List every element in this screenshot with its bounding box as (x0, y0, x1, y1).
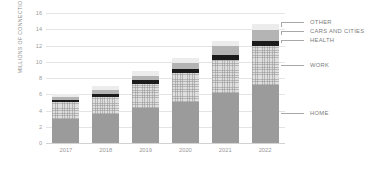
gridline (46, 94, 285, 95)
stacked-bar[interactable] (172, 58, 199, 143)
bar-segment-home[interactable] (172, 102, 199, 143)
legend-label[interactable]: HOME (310, 110, 329, 116)
y-tick-label: 14 (26, 26, 42, 32)
bar-group[interactable] (252, 13, 279, 143)
bar-group[interactable] (132, 13, 159, 143)
legend-label[interactable]: HEALTH (310, 37, 334, 43)
legend-label[interactable]: WORK (310, 62, 329, 68)
bar-segment-home[interactable] (52, 119, 79, 143)
stacked-bar[interactable] (132, 71, 159, 143)
bar-segment-work[interactable] (172, 73, 199, 101)
bar-segment-home[interactable] (132, 108, 159, 143)
stacked-bar[interactable] (252, 24, 279, 143)
x-axis-baseline (46, 143, 285, 144)
gridline (46, 111, 285, 112)
y-tick-label: 16 (26, 10, 42, 16)
bar-segment-work[interactable] (52, 102, 79, 119)
bar-segment-work[interactable] (252, 46, 279, 84)
bar-group[interactable] (212, 13, 239, 143)
x-tick-label: 2019 (126, 147, 165, 153)
bar-group[interactable] (172, 13, 199, 143)
y-tick-label: 4 (26, 108, 42, 114)
bar-segment-cars-and-cities[interactable] (212, 46, 239, 55)
gridline (46, 46, 285, 47)
legend-label[interactable]: CARS AND CITIES (310, 28, 364, 34)
bar-segment-work[interactable] (92, 97, 119, 114)
y-tick-label: 2 (26, 124, 42, 130)
y-tick-label: 12 (26, 43, 42, 49)
y-tick-label: 6 (26, 91, 42, 97)
legend-label[interactable]: OTHER (310, 19, 332, 25)
x-tick-label: 2018 (86, 147, 125, 153)
y-tick-label: 0 (26, 140, 42, 146)
y-tick-label: 8 (26, 75, 42, 81)
y-axis-tick-labels: 0246810121416 (24, 13, 42, 143)
bar-segment-cars-and-cities[interactable] (252, 30, 279, 41)
gridline (46, 62, 285, 63)
x-tick-label: 2021 (206, 147, 245, 153)
stacked-bar-chart: MILLIONS OF CONNECTIONS 0246810121416 20… (0, 0, 390, 177)
bar-segment-work[interactable] (132, 84, 159, 108)
gridline (46, 127, 285, 128)
bar-group[interactable] (52, 13, 79, 143)
stacked-bar[interactable] (92, 86, 119, 143)
y-axis-title: MILLIONS OF CONNECTIONS (17, 0, 23, 93)
gridline (46, 13, 285, 14)
bar-group[interactable] (92, 13, 119, 143)
stacked-bar[interactable] (52, 94, 79, 143)
bar-segment-home[interactable] (92, 114, 119, 143)
plot-area: 201720182019202020212022 (46, 13, 285, 143)
gridline (46, 29, 285, 30)
gridline (46, 78, 285, 79)
x-tick-label: 2017 (46, 147, 85, 153)
bar-segment-work[interactable] (212, 60, 239, 93)
x-tick-label: 2022 (246, 147, 285, 153)
x-tick-label: 2020 (166, 147, 205, 153)
bar-segment-home[interactable] (212, 93, 239, 143)
stacked-bar[interactable] (212, 41, 239, 143)
y-tick-label: 10 (26, 59, 42, 65)
bar-segment-home[interactable] (252, 85, 279, 144)
